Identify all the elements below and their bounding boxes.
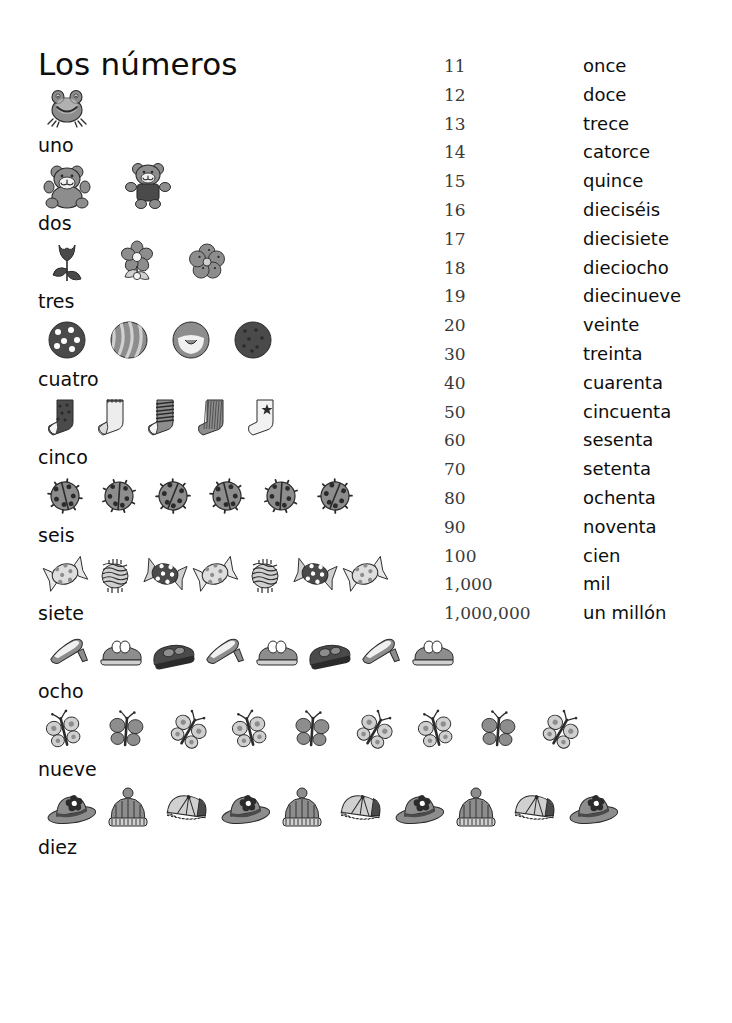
hat-icon — [508, 787, 562, 829]
number-row: 11once — [444, 55, 714, 84]
sock-icon — [194, 396, 236, 440]
number-row: 50cincuenta — [444, 401, 714, 430]
count-group-ocho: ocho — [0, 626, 430, 704]
shoe-icon — [200, 632, 250, 672]
number-word: cien — [583, 545, 620, 566]
butterfly-icon — [168, 710, 208, 750]
candy-icon — [244, 554, 288, 594]
teddy-bear-icon — [126, 159, 178, 209]
shoe-icon — [356, 632, 406, 672]
number-word: ochenta — [583, 487, 656, 508]
number-row: 1,000,000un millón — [444, 602, 714, 631]
butterfly-icon — [230, 710, 270, 750]
number-word: catorce — [583, 141, 650, 162]
icon-row-ladybug — [0, 470, 430, 522]
number-row: 14catorce — [444, 141, 714, 170]
number-row: 16dieciséis — [444, 199, 714, 228]
ladybug-icon — [260, 475, 302, 517]
number-row: 20veinte — [444, 314, 714, 343]
icon-row-frog — [0, 80, 430, 132]
number-digits: 15 — [444, 171, 583, 191]
count-group-cuatro: cuatro — [0, 314, 430, 392]
count-label: cinco — [38, 444, 468, 470]
shoe-icon — [148, 632, 198, 672]
ladybug-icon — [314, 475, 356, 517]
number-row: 19diecinueve — [444, 285, 714, 314]
number-digits: 20 — [444, 315, 583, 335]
candy-icon — [144, 554, 188, 594]
count-label: siete — [38, 600, 468, 626]
number-word: setenta — [583, 458, 651, 479]
count-group-diez: diez — [0, 782, 430, 860]
number-word: doce — [583, 84, 626, 105]
number-digits: 11 — [444, 56, 583, 76]
number-word: once — [583, 55, 626, 76]
icon-row-flower — [0, 236, 430, 288]
number-digits: 80 — [444, 488, 583, 508]
number-digits: 50 — [444, 402, 583, 422]
teddy-bear-icon — [44, 159, 96, 209]
count-group-seis: seis — [0, 470, 430, 548]
count-group-nueve: nueve — [0, 704, 430, 782]
number-row: 13trece — [444, 113, 714, 142]
icon-row-sock — [0, 392, 430, 444]
number-word: sesenta — [583, 429, 653, 450]
number-row: 15quince — [444, 170, 714, 199]
count-label: seis — [38, 522, 468, 548]
butterfly-icon — [478, 710, 518, 750]
hat-icon — [392, 787, 446, 829]
numbers-table: 11once12doce13trece14catorce15quince16di… — [444, 55, 714, 631]
number-digits: 12 — [444, 85, 583, 105]
number-row: 1,000mil — [444, 573, 714, 602]
count-group-uno: uno — [0, 80, 430, 158]
candy-icon — [94, 554, 138, 594]
ball-icon — [168, 318, 214, 362]
number-word: cuarenta — [583, 372, 663, 393]
shoe-icon — [408, 632, 458, 672]
count-label: diez — [38, 834, 468, 860]
shoe-icon — [252, 632, 302, 672]
ladybug-icon — [206, 475, 248, 517]
number-digits: 13 — [444, 114, 583, 134]
number-word: treinta — [583, 343, 643, 364]
hat-icon — [218, 787, 272, 829]
hat-icon — [334, 787, 388, 829]
count-group-dos: dos — [0, 158, 430, 236]
number-digits: 18 — [444, 258, 583, 278]
flower-icon — [44, 239, 90, 285]
number-word: noventa — [583, 516, 657, 537]
butterfly-icon — [354, 710, 394, 750]
number-digits: 19 — [444, 286, 583, 306]
butterfly-icon — [416, 710, 456, 750]
count-label: cuatro — [38, 366, 468, 392]
butterfly-icon — [540, 710, 580, 750]
candy-icon — [44, 554, 88, 594]
sock-icon — [244, 396, 286, 440]
number-word: cincuenta — [583, 401, 671, 422]
number-digits: 90 — [444, 517, 583, 537]
frog-icon — [44, 83, 90, 129]
count-label: tres — [38, 288, 468, 314]
candy-icon — [344, 554, 388, 594]
ball-icon — [230, 318, 276, 362]
icon-row-teddy-bear — [0, 158, 430, 210]
icon-row-hat — [0, 782, 430, 834]
shoe-icon — [96, 632, 146, 672]
butterfly-icon — [106, 710, 146, 750]
butterfly-icon — [44, 710, 84, 750]
count-label: nueve — [38, 756, 468, 782]
number-digits: 70 — [444, 459, 583, 479]
icon-row-ball — [0, 314, 430, 366]
number-word: un millón — [583, 602, 667, 623]
butterfly-icon — [292, 710, 332, 750]
number-word: dieciséis — [583, 199, 660, 220]
number-word: mil — [583, 573, 611, 594]
ladybug-icon — [98, 475, 140, 517]
ladybug-icon — [44, 475, 86, 517]
number-word: veinte — [583, 314, 639, 335]
number-row: 60sesenta — [444, 429, 714, 458]
icon-row-shoe — [0, 626, 430, 678]
shoe-icon — [304, 632, 354, 672]
number-row: 40cuarenta — [444, 372, 714, 401]
page-title: Los números — [38, 46, 238, 82]
